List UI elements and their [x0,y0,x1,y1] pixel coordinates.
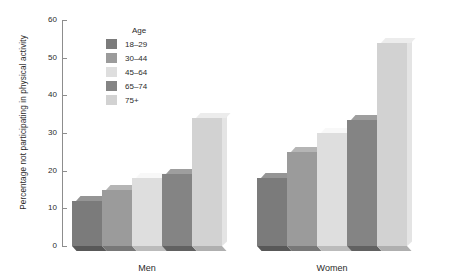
bar [287,152,317,246]
bar-front-face [132,178,162,246]
bar [257,178,287,246]
bar-base-shadow [377,246,412,251]
bar-side-face [407,38,412,246]
bar-base-shadow [317,246,352,251]
bar-base-shadow [347,246,382,251]
bar [377,43,407,246]
bar-base-shadow [192,246,227,251]
bar [192,118,222,246]
bar-base-shadow [287,246,322,251]
bar-front-face [347,120,377,246]
bar-base-shadow [102,246,137,251]
bar-base-shadow [162,246,197,251]
bar-base-shadow [132,246,167,251]
bar-front-face [162,174,192,246]
bar [347,120,377,246]
bar-front-face [102,190,132,247]
bar [72,201,102,246]
bar-base-shadow [257,246,292,251]
plot-area: MenWomen [0,0,455,278]
bar-front-face [72,201,102,246]
bar-side-face [222,113,227,246]
bar-front-face [377,43,407,246]
bar [102,190,132,247]
bar-front-face [192,118,222,246]
bar-chart: Percentage not participating in physical… [0,0,455,278]
bar [162,174,192,246]
bar [132,178,162,246]
x-axis-group-label: Men [72,263,222,273]
bar-base-shadow [72,246,107,251]
x-axis-group-label: Women [257,263,407,273]
bar-front-face [257,178,287,246]
bar-front-face [317,133,347,246]
bar-front-face [287,152,317,246]
bar [317,133,347,246]
